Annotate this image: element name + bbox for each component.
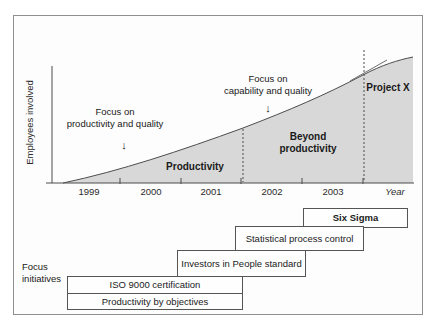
- year-label-2003: 2003: [311, 186, 355, 198]
- phase-label-line: productivity: [258, 143, 358, 155]
- initiative-label: Productivity by objectives: [102, 296, 209, 308]
- phase-label-productivity: Productivity: [145, 161, 245, 173]
- year-label-1999: 1999: [67, 186, 111, 198]
- initiative-box-six-sigma: Six Sigma: [303, 208, 408, 228]
- year-label-2000: 2000: [129, 186, 173, 198]
- initiative-label: Six Sigma: [333, 212, 378, 224]
- initiative-label: Investors in People standard: [181, 258, 301, 270]
- phase-label-beyond-productivity: Beyond productivity: [258, 131, 358, 154]
- figure-growth-diagram: Employees involved Focus on productivity…: [0, 0, 433, 326]
- annotation-productivity-quality: Focus on productivity and quality: [45, 106, 185, 129]
- phase-label-project-x: Project X: [348, 82, 428, 94]
- annotation-line: Focus on: [45, 106, 185, 118]
- annotation-line: capability and quality: [198, 85, 338, 97]
- down-arrow-icon: ↓: [114, 140, 134, 152]
- initiative-label: ISO 9000 certification: [110, 279, 201, 291]
- focus-initiatives-heading: Focus initiatives: [22, 261, 92, 285]
- phase-label-line: Beyond: [258, 131, 358, 143]
- initiative-box-productivity-by-objectives: Productivity by objectives: [67, 293, 243, 310]
- annotation-line: productivity and quality: [45, 118, 185, 130]
- year-label-2002: 2002: [250, 186, 294, 198]
- initiative-box-statistical-process-control: Statistical process control: [235, 226, 364, 251]
- annotation-capability-quality: Focus on capability and quality: [198, 73, 338, 96]
- y-axis-label: Employees involved: [24, 63, 37, 183]
- initiative-box-investors-in-people: Investors in People standard: [177, 250, 306, 277]
- down-arrow-icon: ↓: [258, 103, 278, 115]
- initiative-label: Statistical process control: [246, 233, 354, 245]
- year-label-2001: 2001: [189, 186, 233, 198]
- initiative-box-iso-9000: ISO 9000 certification: [67, 276, 243, 294]
- heading-line: Focus: [22, 261, 92, 273]
- heading-line: initiatives: [22, 273, 92, 285]
- annotation-line: Focus on: [198, 73, 338, 85]
- x-axis-caption-year: Year: [373, 186, 417, 198]
